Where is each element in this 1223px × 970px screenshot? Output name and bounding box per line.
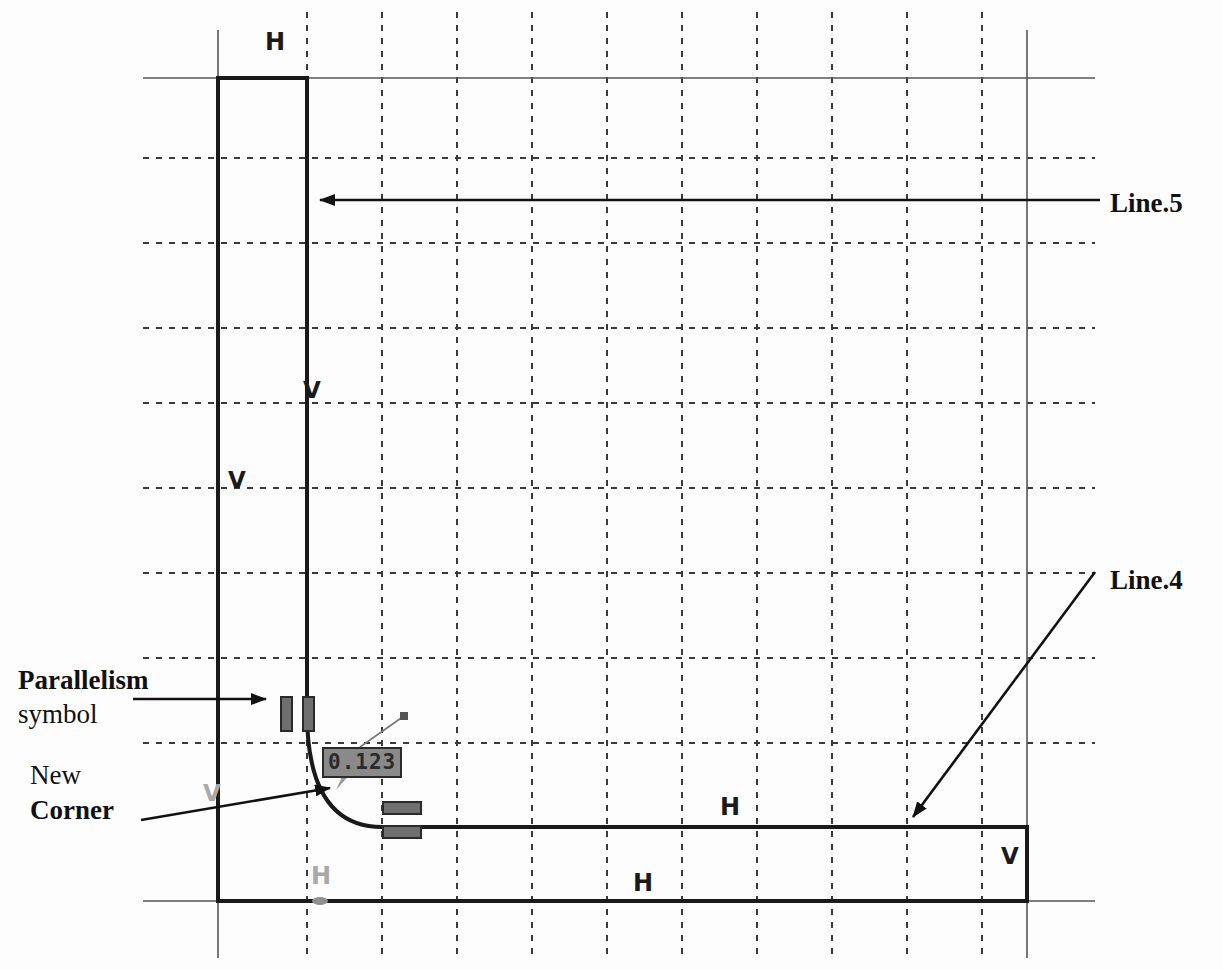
constraint-v-faded[interactable]: V [203, 780, 221, 806]
constraint-v-outer[interactable]: V [228, 467, 246, 493]
sketch-axes [143, 30, 1095, 958]
constraint-h-bottom[interactable]: H [633, 869, 653, 897]
annotation-line4: Line.4 [1110, 565, 1183, 595]
annotation-leader-lines [133, 200, 1100, 820]
sketch-canvas[interactable]: Line.5 Line.4 Parallelism symbol New Cor… [0, 0, 1223, 970]
annotation-line5: Line.5 [1110, 188, 1183, 218]
annotation-symbol: symbol [18, 699, 98, 729]
constraint-v-inner[interactable]: V [303, 377, 321, 403]
leader-dimension-handle [400, 712, 408, 720]
grid-vertical-lines [307, 12, 982, 958]
constraint-v-right-edge[interactable]: V [1001, 843, 1019, 869]
dimension-value-box[interactable]: 0.123 [322, 747, 402, 778]
annotation-parallelism: Parallelism [18, 665, 148, 695]
constraint-h-mid-right[interactable]: H [720, 793, 740, 821]
grid-horizontal-lines [143, 158, 1095, 743]
leader-corner [141, 788, 330, 820]
parallelism-symbol-vertical[interactable] [281, 697, 314, 731]
parallelism-symbol-horizontal[interactable] [383, 802, 421, 838]
constraint-h-faded[interactable]: H [311, 862, 331, 890]
sketch-vector-layer [0, 0, 1223, 970]
annotation-new: New [30, 760, 81, 790]
constraint-h-top[interactable]: H [265, 28, 285, 56]
leader-line4 [913, 572, 1095, 817]
selected-point-marker [312, 897, 328, 905]
annotation-corner: Corner [30, 795, 114, 825]
